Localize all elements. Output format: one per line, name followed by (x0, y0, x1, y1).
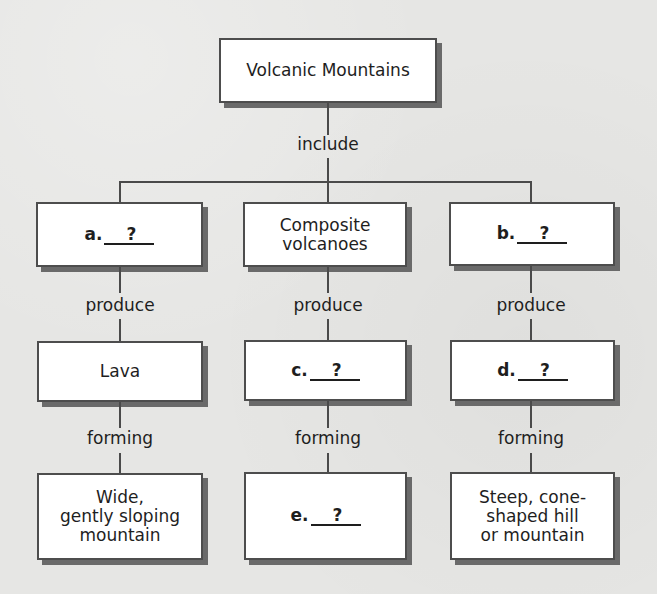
link-label-produce-col3: produce (496, 295, 565, 315)
blank-letter: e. (291, 506, 309, 525)
product-box-lava: Lava (37, 341, 203, 402)
type-box-composite-volcanoes: Composite volcanoes (243, 202, 407, 267)
blank-e[interactable]: e. ? (291, 506, 361, 526)
link-label-forming-col1: forming (87, 428, 153, 448)
blank-fill: ? (517, 224, 567, 244)
connector-col2-forming-top (327, 401, 329, 428)
blank-letter: d. (497, 361, 516, 380)
root-box-volcanic-mountains: Volcanic Mountains (219, 38, 437, 103)
result-box-label: Steep, cone- shaped hill or mountain (479, 488, 586, 545)
connector-col2-produce-bottom (327, 319, 329, 341)
blank-letter: c. (291, 361, 308, 380)
connector-branch-horizontal (119, 181, 532, 183)
type-box-label: Composite volcanoes (280, 216, 371, 254)
link-label-include: include (297, 134, 359, 154)
link-label-forming-col3: forming (498, 428, 564, 448)
blank-fill: ? (104, 225, 154, 245)
connector-col2-produce-top (327, 267, 329, 293)
blank-letter: a. (85, 225, 103, 244)
connector-col3-produce-bottom (530, 319, 532, 340)
connector-col1-forming-top (119, 402, 121, 428)
blank-a[interactable]: a. ? (85, 225, 155, 245)
blank-d[interactable]: d. ? (497, 361, 568, 381)
connector-col1-produce-top (119, 267, 121, 293)
connector-root-bottom (327, 158, 329, 183)
blank-letter: b. (497, 224, 516, 243)
result-box-steep-cone-shaped: Steep, cone- shaped hill or mountain (450, 472, 615, 560)
connector-col3-forming-top (530, 401, 532, 428)
blank-c[interactable]: c. ? (291, 361, 360, 381)
connector-col2-forming-bottom (327, 453, 329, 473)
link-label-produce-col2: produce (293, 295, 362, 315)
blank-fill: ? (311, 506, 361, 526)
concept-map-canvas: Volcanic Mountains include a. ? produce … (0, 0, 657, 594)
type-box-a: a. ? (36, 202, 203, 267)
link-label-forming-col2: forming (295, 428, 361, 448)
product-box-c: c. ? (244, 340, 407, 401)
connector-root-top (327, 103, 329, 135)
connector-col1-produce-bottom (119, 319, 121, 341)
result-box-wide-gently-sloping: Wide, gently sloping mountain (37, 473, 203, 560)
connector-col1-forming-bottom (119, 453, 121, 473)
product-box-d: d. ? (450, 340, 615, 401)
connector-branch-b (530, 181, 532, 203)
blank-fill: ? (310, 361, 360, 381)
connector-branch-a (119, 181, 121, 203)
link-label-produce-col1: produce (85, 295, 154, 315)
connector-branch-composite (327, 181, 329, 203)
result-box-label: Wide, gently sloping mountain (60, 488, 180, 545)
product-box-label: Lava (100, 362, 140, 381)
connector-col3-produce-top (530, 266, 532, 293)
result-box-e: e. ? (244, 472, 407, 560)
root-box-label: Volcanic Mountains (246, 61, 410, 80)
blank-fill: ? (518, 361, 568, 381)
blank-b[interactable]: b. ? (497, 224, 568, 244)
type-box-b: b. ? (449, 202, 615, 266)
connector-col3-forming-bottom (530, 453, 532, 473)
